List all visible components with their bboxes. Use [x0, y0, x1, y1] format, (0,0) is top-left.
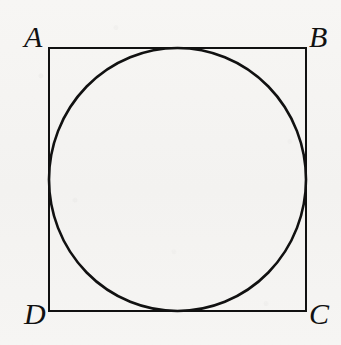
vertex-label-a: A	[24, 22, 42, 52]
vertex-label-b: B	[309, 22, 327, 52]
inscribed-circle	[49, 48, 306, 311]
square-abcd	[49, 48, 306, 311]
geometry-figure: A B C D	[0, 0, 341, 345]
figure-canvas	[0, 0, 341, 345]
vertex-label-c: C	[309, 299, 329, 329]
vertex-label-d: D	[24, 299, 46, 329]
